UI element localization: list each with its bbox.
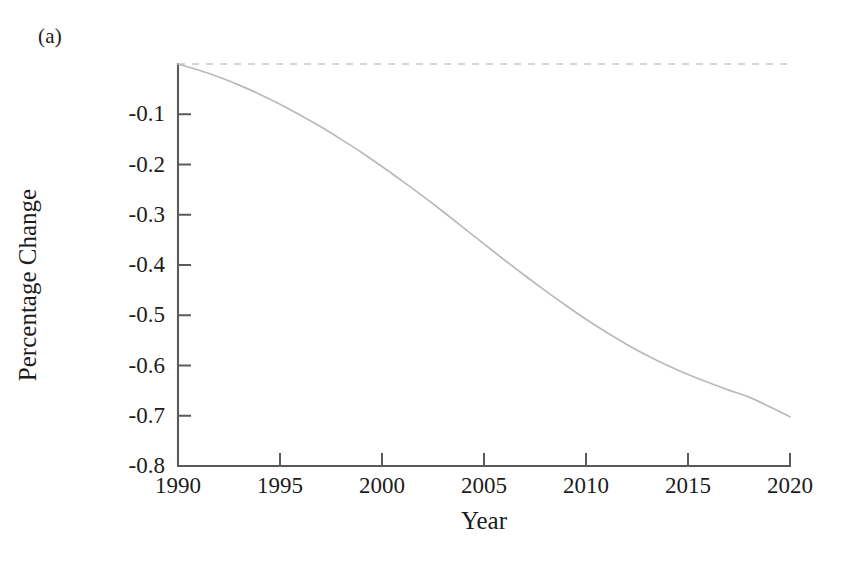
x-tick-label: 1990 <box>155 474 201 497</box>
x-tick-label: 2010 <box>563 474 609 497</box>
y-tick-marks <box>178 114 191 416</box>
x-tick-label: 1995 <box>257 474 303 497</box>
axis-frame <box>178 64 790 466</box>
y-tick-label: -0.1 <box>129 102 165 125</box>
y-tick-label: -0.7 <box>129 404 165 427</box>
data-series-group <box>178 64 790 417</box>
y-axis-title: Percentage Change <box>15 189 40 381</box>
plot-canvas <box>0 0 852 570</box>
y-tick-label: -0.6 <box>129 354 165 377</box>
percentage-change-curve <box>178 64 790 417</box>
x-tick-marks <box>178 453 790 466</box>
y-tick-label: -0.3 <box>129 203 165 226</box>
y-tick-label: -0.4 <box>129 253 165 276</box>
x-tick-label: 2000 <box>359 474 405 497</box>
x-tick-label: 2020 <box>767 474 813 497</box>
chart-figure: (a) -0.8-0.7-0.6-0.5-0.4-0.3-0.2-0.1 199… <box>0 0 852 570</box>
y-tick-label: -0.5 <box>129 303 165 326</box>
x-tick-label: 2015 <box>665 474 711 497</box>
x-axis-title: Year <box>461 508 507 533</box>
axes-group <box>178 64 790 466</box>
y-tick-label: -0.2 <box>129 153 165 176</box>
x-tick-label: 2005 <box>461 474 507 497</box>
